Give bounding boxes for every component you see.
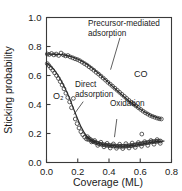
x-tick-label: 0.0: [40, 166, 53, 177]
sticking-probability-chart: 0.00.20.40.60.81.0 0.00.20.40.60.8 Cover…: [0, 0, 182, 191]
y-axis-title: Sticking probability: [2, 45, 14, 133]
series-label-o2: O₂: [53, 91, 64, 101]
y-tick-label: 0.2: [28, 128, 41, 139]
series-points-oxidation-plateau: [86, 132, 163, 150]
y-tick-label: 0.8: [28, 41, 41, 52]
annotation-oxidation-line-1: Oxidation: [110, 99, 145, 108]
leader-line-precursor-mediated-adsorption: [111, 38, 120, 70]
series-points-co: [45, 51, 163, 121]
annotation-direct-line-2: adsorption: [75, 90, 114, 99]
x-tick-label: 0.4: [102, 166, 115, 177]
x-axis-tick-labels: 0.00.20.40.60.8: [40, 166, 178, 177]
leader-line-direct-adsorption: [74, 102, 83, 115]
data-point: [77, 126, 81, 130]
fit-curves: [47, 54, 165, 146]
x-axis-ticks: [47, 159, 172, 163]
annotation-direct-adsorption: Direct adsorption: [75, 80, 114, 99]
y-axis-ticks: [47, 18, 51, 163]
annotation-oxidation: Oxidation: [110, 99, 145, 108]
series-label-co: CO: [134, 69, 148, 79]
data-point: [140, 132, 144, 136]
y-axis-tick-labels: 0.00.20.40.60.81.0: [28, 12, 41, 168]
y-tick-label: 1.0: [28, 12, 41, 23]
y-tick-label: 0.6: [28, 70, 41, 81]
x-tick-label: 0.6: [134, 166, 147, 177]
x-axis-title: Coverage (ML): [73, 176, 143, 188]
annotation-precursor-mediated-adsorption: Precursor-mediated adsorption: [88, 19, 160, 38]
data-point: [73, 117, 77, 121]
annotation-precursor-line-1: Precursor-mediated: [88, 19, 160, 28]
annotation-direct-line-1: Direct: [75, 80, 97, 89]
annotation-precursor-line-2: adsorption: [88, 29, 127, 38]
y-tick-label: 0.4: [28, 99, 41, 110]
x-tick-label: 0.8: [165, 166, 178, 177]
chart-canvas: 0.00.20.40.60.81.0 0.00.20.40.60.8 Cover…: [0, 0, 182, 191]
data-point: [75, 122, 79, 126]
x-tick-label: 0.2: [71, 166, 84, 177]
leader-line-oxidation: [114, 119, 116, 137]
